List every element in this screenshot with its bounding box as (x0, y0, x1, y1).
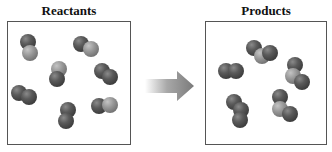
dark-atom (228, 63, 244, 79)
dark-atom (232, 112, 248, 128)
dark-atom (102, 69, 118, 85)
reaction-arrow-icon (145, 70, 195, 102)
light-atom (102, 97, 118, 113)
light-atom (22, 45, 38, 61)
dark-atom (294, 74, 310, 90)
dark-atom (262, 45, 278, 61)
dark-atom (58, 113, 74, 129)
dark-atom (21, 89, 37, 105)
reactants-title: Reactants (7, 3, 131, 19)
light-atom (83, 41, 99, 57)
products-title: Products (205, 3, 327, 19)
dark-atom (49, 71, 65, 87)
dark-atom (282, 106, 298, 122)
